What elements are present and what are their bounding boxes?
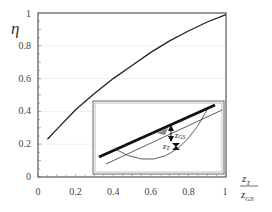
svg-text:zT: zT xyxy=(241,172,251,187)
x-tick-1: 1 xyxy=(223,186,228,197)
x-tick-0.2: 0.2 xyxy=(69,186,82,197)
y-tick-0.2: 0.2 xyxy=(19,138,32,149)
x-tick-labels: 0 0.2 0.4 0.6 0.8 1 xyxy=(36,186,228,197)
x-tick-0: 0 xyxy=(36,186,41,197)
y-tick-labels: 0 0.2 0.4 0.6 0.8 1 xyxy=(19,8,32,182)
eta-chart: 0 0.2 0.4 0.6 0.8 1 0 0.2 0.4 0.6 0.8 1 … xyxy=(0,0,272,212)
x-tick-0.4: 0.4 xyxy=(107,186,120,197)
inset-schematic: zGS zT xyxy=(93,101,224,174)
x-label-den-sub: GS xyxy=(245,195,254,203)
y-axis-label: η xyxy=(11,19,19,38)
y-minor-ticks xyxy=(38,13,41,177)
x-tick-0.8: 0.8 xyxy=(182,186,195,197)
y-tick-0.4: 0.4 xyxy=(19,105,32,116)
y-tick-0.8: 0.8 xyxy=(19,40,32,51)
x-axis-label: zT zGS xyxy=(240,172,258,203)
svg-text:zGS: zGS xyxy=(240,188,254,203)
y-tick-1: 1 xyxy=(26,8,31,19)
y-tick-0: 0 xyxy=(26,171,31,182)
y-tick-0.6: 0.6 xyxy=(19,73,32,84)
x-tick-0.6: 0.6 xyxy=(145,186,158,197)
